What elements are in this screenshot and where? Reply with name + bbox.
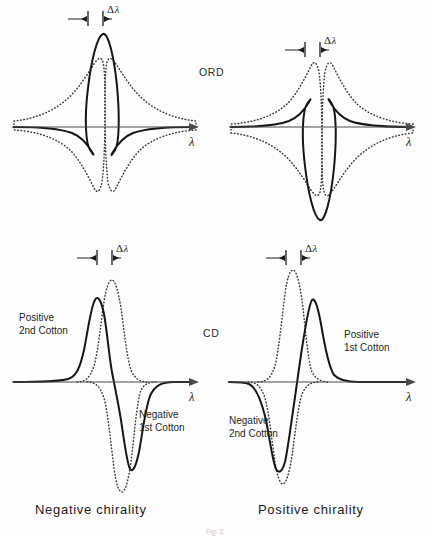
cd-left-axis-arrowhead bbox=[189, 378, 199, 386]
cd-left-summed-curve bbox=[14, 298, 194, 470]
ord-right-delta-lambda-annotation: Δλ bbox=[285, 34, 337, 57]
ord-left-delta-lambda-annotation: Δλ bbox=[68, 3, 120, 26]
caption-positive-chirality: Positive chirality bbox=[258, 502, 364, 517]
arrowhead-left bbox=[298, 47, 304, 53]
ord-left-component-1 bbox=[14, 58, 105, 191]
svg-text:Negative: Negative bbox=[229, 415, 269, 426]
figure-container: λ Δλ λ Δλ ORD bbox=[0, 0, 434, 539]
cd-left-annotation-positive-2nd-cotton: Positive 2nd Cotton bbox=[19, 312, 68, 336]
cd-right-summed-curve bbox=[229, 300, 409, 472]
cd-right-delta-label: Δλ bbox=[305, 242, 318, 254]
cd-right-delta-lambda-annotation: Δλ bbox=[266, 242, 318, 265]
svg-text:Positive: Positive bbox=[344, 329, 379, 340]
arrowhead-right bbox=[321, 47, 327, 53]
cd-right-axis-label: λ bbox=[405, 390, 412, 404]
panel-ord-right: λ Δλ bbox=[229, 34, 416, 220]
ord-left-axis-arrowhead bbox=[189, 123, 199, 131]
arrowhead-right bbox=[104, 16, 110, 22]
panel-ord-left: λ Δλ bbox=[12, 3, 199, 191]
ord-right-delta-label: Δλ bbox=[324, 34, 337, 46]
panel-cd-left: λ Δλ Positive 2nd Cotton Negative 1st Co… bbox=[12, 242, 199, 492]
cd-right-axis-arrowhead bbox=[406, 378, 416, 386]
svg-text:Negative: Negative bbox=[139, 409, 179, 420]
ord-left-summed-curve bbox=[14, 34, 194, 155]
ord-right-summed-curve bbox=[231, 99, 411, 220]
arrowhead-left bbox=[81, 16, 87, 22]
cd-right-band-positive bbox=[258, 270, 329, 382]
arrowhead-right bbox=[302, 255, 308, 261]
arrowhead-right bbox=[113, 255, 119, 261]
ord-left-axis-label: λ bbox=[188, 135, 195, 149]
panel-cd-right: λ Δλ Positive 1st Cotton Negative 2nd Co… bbox=[229, 242, 416, 484]
ord-cd-chirality-figure: λ Δλ λ Δλ ORD bbox=[0, 0, 434, 539]
svg-text:1st Cotton: 1st Cotton bbox=[139, 422, 185, 433]
cd-left-delta-lambda-annotation: Δλ bbox=[77, 242, 129, 265]
cd-left-delta-label: Δλ bbox=[116, 242, 129, 254]
figure-number: Fig. 2 bbox=[206, 528, 224, 536]
arrowhead-left bbox=[279, 255, 285, 261]
ord-right-axis-arrowhead bbox=[406, 123, 416, 131]
cd-right-annotation-negative-2nd-cotton: Negative 2nd Cotton bbox=[229, 415, 278, 439]
ord-right-axis-label: λ bbox=[405, 135, 412, 149]
ord-left-delta-label: Δλ bbox=[107, 3, 120, 15]
row-label-ord: ORD bbox=[199, 66, 224, 78]
cd-right-annotation-positive-1st-cotton: Positive 1st Cotton bbox=[344, 329, 390, 353]
svg-text:1st Cotton: 1st Cotton bbox=[344, 342, 390, 353]
svg-text:2nd Cotton: 2nd Cotton bbox=[19, 325, 68, 336]
svg-text:Positive: Positive bbox=[19, 312, 54, 323]
cd-left-axis-label: λ bbox=[188, 390, 195, 404]
ord-right-component-1 bbox=[231, 63, 322, 196]
cd-left-annotation-negative-1st-cotton: Negative 1st Cotton bbox=[139, 409, 185, 433]
row-label-cd: CD bbox=[203, 327, 219, 339]
caption-negative-chirality: Negative chirality bbox=[35, 502, 147, 517]
svg-text:2nd Cotton: 2nd Cotton bbox=[229, 428, 278, 439]
arrowhead-left bbox=[90, 255, 96, 261]
